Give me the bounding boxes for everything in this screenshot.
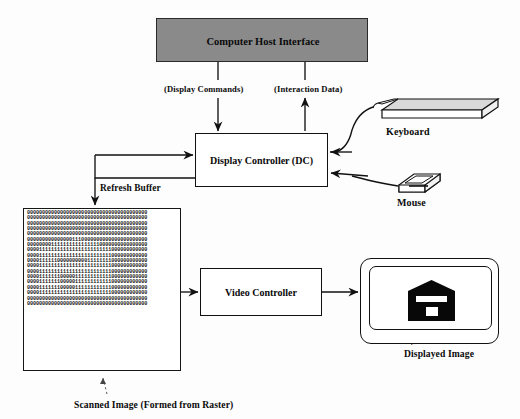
connector-buffer-riser bbox=[95, 155, 193, 178]
scanned-image-raster-frame: 0000000000000000000000000000000000000000… bbox=[23, 208, 181, 371]
mouse-icon bbox=[399, 174, 440, 192]
mouse-label: Mouse bbox=[397, 197, 426, 208]
video-controller-box: Video Controller bbox=[200, 268, 322, 316]
connector-mouse-to-dc bbox=[331, 173, 368, 176]
connector-keyboard-cable bbox=[330, 107, 373, 152]
house-glyph-icon bbox=[408, 280, 455, 321]
display-controller-box: Display Controller (DC) bbox=[195, 133, 328, 187]
leader-arrowhead-scanned-image bbox=[100, 378, 106, 384]
refresh-buffer-label: Refresh Buffer bbox=[100, 183, 161, 193]
keyboard-label: Keyboard bbox=[386, 126, 430, 137]
computer-host-interface-bar: Computer Host Interface bbox=[156, 18, 368, 62]
display-commands-label: (Display Commands) bbox=[164, 84, 243, 94]
raster-bitmap: 0000000000000000000000000000000000000000… bbox=[27, 211, 177, 307]
display-controller-label: Display Controller (DC) bbox=[210, 155, 313, 166]
connector-mouse-cable bbox=[352, 176, 398, 186]
computer-host-interface-label: Computer Host Interface bbox=[157, 19, 369, 63]
diagram-canvas: Computer Host Interface Display Controll… bbox=[0, 0, 520, 419]
interaction-data-label: (Interaction Data) bbox=[274, 84, 342, 94]
keyboard-icon bbox=[373, 99, 498, 118]
scanned-image-caption: Scanned Image (Formed from Raster) bbox=[74, 399, 233, 410]
video-controller-label: Video Controller bbox=[225, 287, 297, 298]
monitor-screen bbox=[369, 266, 492, 330]
monitor-bezel bbox=[360, 258, 499, 344]
displayed-image-caption: Displayed Image bbox=[404, 348, 474, 359]
